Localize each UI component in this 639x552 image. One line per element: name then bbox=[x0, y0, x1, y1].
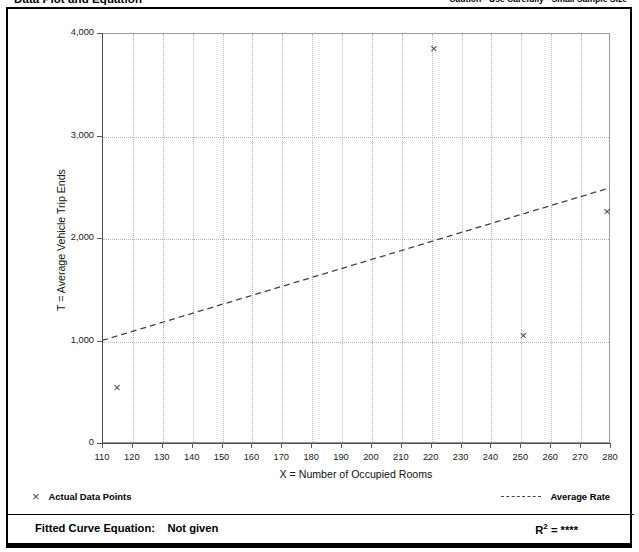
legend-label-average-rate: Average Rate bbox=[550, 491, 610, 502]
chart-panel: 1101201301401501601701801902002102202302… bbox=[6, 7, 632, 545]
x-axis-tick bbox=[102, 443, 103, 448]
r-squared-value: R2 = **** bbox=[535, 522, 578, 536]
y-axis-tick-label: 1,000 bbox=[40, 335, 94, 345]
y-axis-tick-label: 0 bbox=[40, 437, 94, 447]
x-axis-tick bbox=[341, 443, 342, 448]
caution-note: Caution - Use Carefully - Small Sample S… bbox=[449, 0, 627, 4]
x-axis-tick bbox=[222, 443, 223, 448]
x-axis-tick bbox=[192, 443, 193, 448]
r-squared-stars: **** bbox=[561, 524, 578, 536]
y-axis-title: T = Average Vehicle Trip Ends bbox=[55, 90, 67, 390]
legend-item-average-rate: Average Rate bbox=[501, 491, 610, 502]
x-axis-tick bbox=[281, 443, 282, 448]
fitted-curve-value: Not given bbox=[167, 522, 218, 534]
y-axis-tick bbox=[97, 443, 102, 444]
x-axis-tick bbox=[251, 443, 252, 448]
x-axis-tick bbox=[162, 443, 163, 448]
x-axis-tick bbox=[311, 443, 312, 448]
y-axis-tick-label: 3,000 bbox=[40, 130, 94, 140]
page-header: Data Plot and Equation Caution - Use Car… bbox=[0, 0, 639, 7]
average-rate-trendline bbox=[102, 33, 610, 443]
fitted-curve-label: Fitted Curve Equation: bbox=[35, 522, 155, 534]
x-axis-tick-label: 280 bbox=[590, 452, 630, 462]
fitted-curve-equation: Fitted Curve Equation: Not given bbox=[35, 522, 218, 534]
legend-label-actual-points: Actual Data Points bbox=[49, 491, 132, 502]
y-axis-tick-label: 2,000 bbox=[40, 232, 94, 242]
dashed-line-icon bbox=[501, 496, 541, 497]
x-axis-tick bbox=[520, 443, 521, 448]
y-axis-tick-label: 4,000 bbox=[40, 27, 94, 37]
footer-row: Fitted Curve Equation: Not given R2 = **… bbox=[8, 514, 634, 545]
trend-line-segment bbox=[102, 188, 610, 341]
bottom-rule bbox=[6, 545, 632, 548]
data-point-marker bbox=[111, 382, 122, 393]
chart-legend: × Actual Data Points Average Rate bbox=[8, 491, 634, 513]
x-axis-tick bbox=[371, 443, 372, 448]
x-axis-tick bbox=[401, 443, 402, 448]
r-squared-exponent: 2 bbox=[543, 522, 547, 531]
page-title: Data Plot and Equation bbox=[14, 0, 142, 5]
data-point-marker bbox=[518, 330, 529, 341]
x-axis-tick bbox=[580, 443, 581, 448]
x-axis-tick bbox=[490, 443, 491, 448]
x-axis-line bbox=[102, 443, 611, 444]
x-axis-tick bbox=[431, 443, 432, 448]
x-axis-tick bbox=[461, 443, 462, 448]
data-point-marker bbox=[602, 206, 613, 217]
chart-area: 1101201301401501601701801902002102202302… bbox=[8, 9, 634, 547]
x-axis-title: X = Number of Occupied Rooms bbox=[102, 468, 610, 480]
data-point-marker bbox=[428, 43, 439, 54]
r-squared-equals: = bbox=[551, 524, 558, 536]
cross-marker-icon: × bbox=[32, 491, 40, 502]
legend-item-actual-points: × Actual Data Points bbox=[32, 491, 131, 502]
x-axis-tick bbox=[550, 443, 551, 448]
x-axis-tick bbox=[132, 443, 133, 448]
x-axis-tick bbox=[610, 443, 611, 448]
